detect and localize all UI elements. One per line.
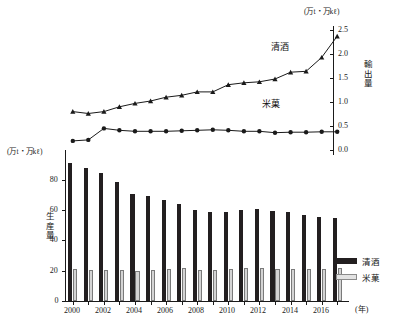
line-seishu-export: [73, 36, 337, 113]
marker-circle: [164, 129, 168, 133]
marker-circle: [86, 138, 90, 142]
marker-circle: [335, 130, 339, 134]
marker-triangle: [335, 34, 340, 39]
marker-circle: [148, 129, 152, 133]
marker-circle: [102, 126, 106, 130]
legend-swatch-beika: [336, 274, 357, 280]
legend-label-seishu: 清酒: [362, 255, 380, 267]
line-beika-export: [73, 128, 337, 141]
marker-circle: [304, 130, 308, 134]
marker-circle: [133, 129, 137, 133]
marker-circle: [226, 128, 230, 132]
chart-container: (万t・万kℓ) (万t・万kℓ) 生 産 量 輸 出 量 清酒 米菓 (年) …: [0, 0, 395, 324]
chart-legend: 清酒 米菓: [336, 255, 380, 287]
legend-label-beika: 米菓: [362, 271, 380, 283]
marker-circle: [117, 128, 121, 132]
marker-circle: [180, 129, 184, 133]
marker-circle: [320, 130, 324, 134]
marker-circle: [195, 128, 199, 132]
marker-circle: [273, 131, 277, 135]
marker-circle: [242, 129, 246, 133]
marker-circle: [211, 128, 215, 132]
marker-circle: [288, 130, 292, 134]
legend-item-seishu[interactable]: 清酒: [336, 255, 380, 267]
marker-circle: [71, 139, 75, 143]
marker-circle: [257, 129, 261, 133]
legend-item-beika[interactable]: 米菓: [336, 271, 380, 283]
legend-swatch-seishu: [336, 258, 357, 264]
